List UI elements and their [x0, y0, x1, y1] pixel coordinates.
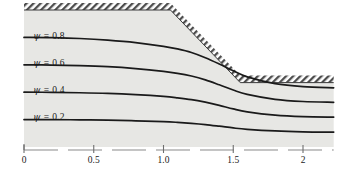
psi-symbol-1: ψ	[33, 57, 41, 68]
psi-symbol-0: ψ	[33, 30, 41, 41]
streamline-value-0: 0.8	[52, 31, 64, 41]
streamline-figure: ψ=0.8 ψ=0.6 ψ=0.4 ψ=0.2 00.51.01.52	[0, 0, 350, 177]
axis-tick-label-2: 1.0	[158, 156, 170, 166]
equals-sign-1: =	[44, 58, 50, 68]
streamline-label-0: ψ=0.8	[33, 31, 65, 42]
axis-tick-label-4: 2	[301, 156, 306, 166]
streamline-label-1: ψ=0.6	[33, 58, 65, 69]
equals-sign-3: =	[44, 112, 50, 122]
equals-sign-2: =	[44, 85, 50, 95]
equals-sign-0: =	[44, 31, 50, 41]
streamline-label-2: ψ=0.4	[33, 85, 65, 96]
psi-symbol-2: ψ	[33, 84, 41, 95]
axis-tick-label-1: 0.5	[88, 156, 100, 166]
axis-tick-label-3: 1.5	[227, 156, 239, 166]
axis-tick-label-0: 0	[22, 156, 27, 166]
streamline-value-2: 0.4	[52, 85, 64, 95]
streamline-value-1: 0.6	[52, 58, 64, 68]
psi-symbol-3: ψ	[33, 111, 41, 122]
streamline-label-3: ψ=0.2	[33, 112, 65, 123]
streamline-value-3: 0.2	[52, 112, 64, 122]
